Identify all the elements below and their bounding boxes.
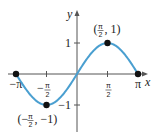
point-annotation: (π2, 1) xyxy=(94,22,121,38)
annotation-num: π xyxy=(28,113,33,120)
data-point xyxy=(43,102,49,108)
x-tick-num: π xyxy=(45,82,50,89)
annotation-den: 2 xyxy=(29,121,33,128)
x-tick-label: π2 xyxy=(106,82,112,98)
annotation-rest: , 1) xyxy=(105,22,121,36)
annotation-num: π xyxy=(98,23,103,30)
x-axis-label: x xyxy=(144,75,151,89)
x-tick-den: 2 xyxy=(107,91,111,98)
y-axis-arrow xyxy=(75,10,80,16)
data-point xyxy=(13,71,19,77)
point-annotation: (−π2, −1) xyxy=(17,112,57,128)
y-tick-label: −1 xyxy=(58,98,71,112)
x-tick-label: π xyxy=(135,77,141,91)
x-tick-num: π xyxy=(106,82,111,89)
annotation-open: (− xyxy=(17,112,28,126)
x-tick-den: 2 xyxy=(46,91,50,98)
x-tick-label: −π xyxy=(10,77,23,91)
annotation-rest: , −1) xyxy=(34,112,57,126)
annotation-den: 2 xyxy=(99,31,103,38)
data-point xyxy=(135,71,141,77)
y-tick-label: 1 xyxy=(65,36,71,50)
x-tick-sign: − xyxy=(37,81,44,95)
data-point xyxy=(104,40,110,46)
annotation-open: ( xyxy=(94,22,98,36)
x-tick-label: −π2 xyxy=(37,81,50,98)
y-axis-label: y xyxy=(66,7,73,21)
sine-chart: x y −π−π2π2π1−1 (−π2, −1)(π2, 1) xyxy=(0,0,157,135)
